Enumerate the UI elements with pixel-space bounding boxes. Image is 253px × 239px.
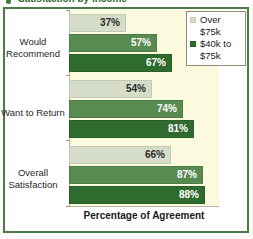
bar-value-label: 66% <box>145 150 165 160</box>
legend-label: $75k <box>200 50 221 61</box>
category-label-text: Would Recommend <box>0 36 66 59</box>
chart-figure: Satisfaction by Income Would Recommend 3… <box>0 0 253 239</box>
legend-item-40k-to-75k: $40k to <box>187 38 245 50</box>
bar-value-label: 88% <box>179 190 199 200</box>
bar-would-recommend-40k-75k: 57% <box>69 34 157 52</box>
legend-swatch-icon <box>190 41 196 47</box>
bar-would-recommend-series3: 67% <box>69 54 172 72</box>
category-label-overall-satisfaction: Overall Satisfaction <box>0 167 66 190</box>
legend-swatch-icon <box>190 17 196 23</box>
bar-value-label: 74% <box>157 104 177 114</box>
legend-label: $75k <box>200 26 221 37</box>
bar-overall-satisfaction-over-75k: 66% <box>69 146 171 164</box>
category-label-line1: Overall <box>0 167 66 179</box>
category-label-want-to-return: Want to Return <box>0 107 66 119</box>
bar-want-to-return-over-75k: 54% <box>69 80 152 98</box>
chart-legend: Over $75k $40k to $75k <box>186 11 246 66</box>
bar-value-label: 67% <box>146 58 166 68</box>
bar-want-to-return-series3: 81% <box>69 120 194 138</box>
legend-item-over-75k-line2: $75k <box>187 26 245 38</box>
bar-want-to-return-40k-75k: 74% <box>69 100 183 118</box>
cropped-title-strip: Satisfaction by Income <box>0 0 253 7</box>
category-label-text: Want to Return <box>0 107 66 119</box>
bar-overall-satisfaction-series3: 88% <box>69 186 205 204</box>
x-axis-title: Percentage of Agreement <box>69 210 219 221</box>
category-label-would-recommend: Would Recommend <box>0 36 66 59</box>
bar-value-label: 57% <box>131 38 151 48</box>
legend-label: Over <box>200 14 221 25</box>
title-bullet-icon <box>6 0 11 4</box>
bar-would-recommend-over-75k: 37% <box>69 14 126 32</box>
axis-tick <box>66 140 70 141</box>
bar-overall-satisfaction-40k-75k: 87% <box>69 166 203 184</box>
axis-tick <box>66 10 70 11</box>
bar-value-label: 54% <box>126 84 146 94</box>
category-label-line2: Satisfaction <box>0 179 66 191</box>
axis-tick <box>66 75 70 76</box>
legend-label: $40k to <box>200 38 231 49</box>
figure-title: Satisfaction by Income <box>18 0 127 4</box>
axis-tick <box>66 206 70 207</box>
bar-value-label: 37% <box>100 18 120 28</box>
bar-value-label: 81% <box>168 124 188 134</box>
value-axis-baseline <box>69 206 219 207</box>
bar-value-label: 87% <box>177 170 197 180</box>
legend-item-40k-to-75k-line2: $75k <box>187 50 245 62</box>
legend-item-over-75k: Over <box>187 14 245 26</box>
